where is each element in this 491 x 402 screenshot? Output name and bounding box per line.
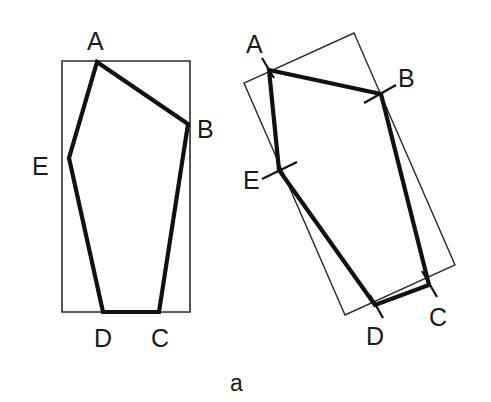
vertex-label-c-left: C [151, 324, 169, 352]
vertex-label-a-left: A [87, 27, 104, 55]
left-panel-group: A B C D E [32, 27, 214, 352]
pentagon-shape-left [69, 62, 188, 312]
vertex-label-c-right: C [429, 303, 447, 331]
vertex-label-d-left: D [94, 324, 112, 352]
vertex-label-e-right: E [243, 166, 260, 194]
vertex-label-a-right: A [246, 30, 263, 58]
vertex-label-b-right: B [398, 64, 415, 92]
axis-aligned-bounding-box [62, 61, 190, 312]
vertex-label-d-right: D [366, 322, 384, 350]
figure-container: A B C D E A B C D E a [0, 0, 491, 402]
figure-canvas: A B C D E A B C D E a [0, 0, 491, 402]
right-panel-group: A B C D E [243, 30, 455, 350]
pentagon-shape-right [269, 70, 429, 305]
tick-at-b-icon [364, 85, 396, 103]
vertex-label-b-left: B [197, 115, 214, 143]
vertex-label-e-left: E [32, 152, 49, 180]
figure-caption: a [230, 370, 243, 396]
